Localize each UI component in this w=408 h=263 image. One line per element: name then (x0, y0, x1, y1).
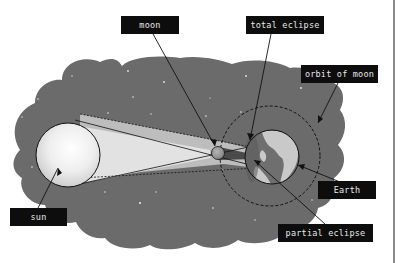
label-partial-eclipse: partial eclipse (278, 224, 373, 242)
label-sun: sun (10, 208, 67, 226)
eclipse-diagram: moon total eclipse orbit of moon sun Ear… (0, 0, 408, 263)
page-edge-divider (393, 0, 395, 263)
label-moon: moon (121, 16, 179, 34)
label-total-eclipse: total eclipse (246, 16, 324, 34)
moon (212, 147, 225, 160)
label-earth: Earth (318, 181, 376, 199)
label-orbit-of-moon: orbit of moon (301, 65, 378, 83)
sun (36, 123, 100, 187)
